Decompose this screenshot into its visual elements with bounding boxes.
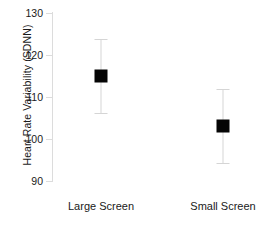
error-bar-cap-lower <box>95 113 108 114</box>
y-tick-mark <box>46 13 52 14</box>
y-axis-line <box>52 12 53 182</box>
error-bar-cap-upper <box>217 89 230 90</box>
y-tick-mark <box>46 139 52 140</box>
y-tick-label: 90 <box>31 175 43 187</box>
chart-figure: Heart Rate Variability (SDNN) 1301201101… <box>0 0 276 225</box>
x-category-label: Small Screen <box>190 200 255 212</box>
y-tick-label: 100 <box>25 133 43 145</box>
data-point-marker <box>217 120 230 133</box>
error-bar-cap-upper <box>95 39 108 40</box>
y-tick-mark <box>46 181 52 182</box>
y-tick-label: 130 <box>25 7 43 19</box>
y-tick-mark <box>46 55 52 56</box>
y-tick-label: 110 <box>26 91 43 103</box>
error-bar-cap-lower <box>217 163 230 164</box>
x-category-label: Large Screen <box>68 200 134 212</box>
data-point-marker <box>95 70 108 83</box>
plot-area: 13012011010090 <box>52 13 270 181</box>
y-tick-mark <box>46 97 52 98</box>
y-tick-label: 120 <box>25 49 43 61</box>
